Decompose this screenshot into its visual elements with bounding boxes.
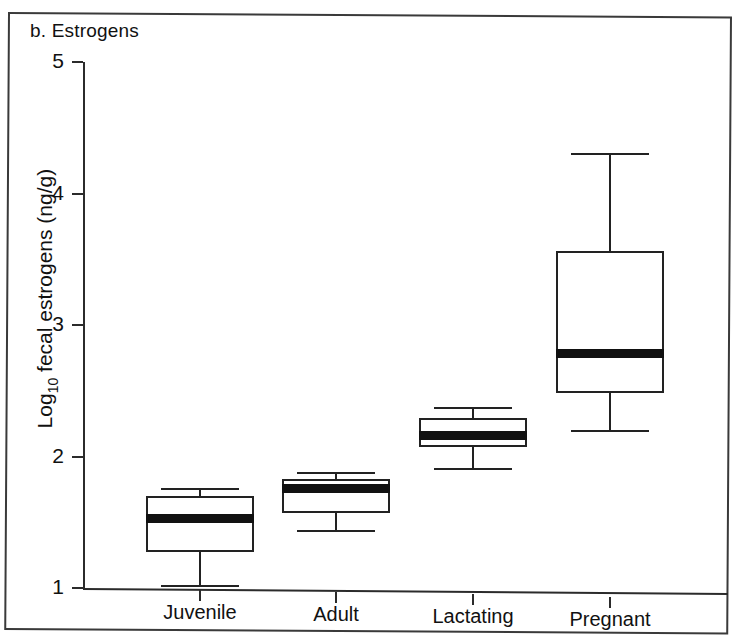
median-bar-adult (282, 484, 390, 493)
upper-cap-juvenile (161, 488, 239, 490)
lower-whisker-pregnant (609, 393, 611, 430)
y-tick-label-2: 2 (30, 445, 64, 466)
box-rect-pregnant (556, 251, 664, 393)
y-tick-1 (72, 587, 83, 589)
median-bar-juvenile (146, 514, 254, 523)
x-tick-lactating (472, 594, 474, 605)
y-tick-label-5: 5 (30, 50, 64, 71)
x-tick-juvenile (199, 590, 201, 601)
lower-cap-pregnant (571, 430, 649, 432)
upper-cap-adult (297, 472, 375, 474)
y-tick-5 (72, 61, 83, 63)
y-tick-label-3: 3 (30, 313, 64, 334)
upper-cap-lactating (434, 407, 512, 409)
median-bar-lactating (419, 431, 527, 440)
y-tick-label-4: 4 (30, 182, 64, 203)
y-axis-line (83, 62, 85, 590)
y-axis-label-subscript: 10 (45, 378, 61, 394)
lower-whisker-juvenile (199, 552, 201, 585)
x-tick-adult (335, 592, 337, 603)
lower-cap-juvenile (161, 585, 239, 587)
y-tick-3 (72, 324, 83, 326)
x-tick-pregnant (609, 597, 611, 608)
x-tick-label-adult: Adult (256, 603, 416, 626)
upper-whisker-pregnant (609, 153, 611, 252)
x-axis-line (83, 588, 728, 595)
lower-cap-lactating (434, 468, 512, 470)
figure-panel: b. Estrogens Log10 fecal estrogens (ng/g… (0, 0, 736, 637)
y-tick-4 (72, 193, 83, 195)
median-bar-pregnant (556, 349, 664, 358)
x-tick-label-pregnant: Pregnant (530, 608, 690, 631)
lower-whisker-lactating (472, 447, 474, 468)
y-axis-label-prefix: Log (33, 393, 56, 428)
box-rect-juvenile (146, 496, 254, 553)
x-tick-label-lactating: Lactating (393, 605, 553, 628)
upper-cap-pregnant (571, 153, 649, 155)
plot-area: Log10 fecal estrogens (ng/g) 12345 Juven… (0, 0, 736, 637)
lower-cap-adult (297, 530, 375, 532)
y-tick-2 (72, 456, 83, 458)
lower-whisker-adult (335, 513, 337, 530)
y-tick-label-1: 1 (30, 576, 64, 597)
